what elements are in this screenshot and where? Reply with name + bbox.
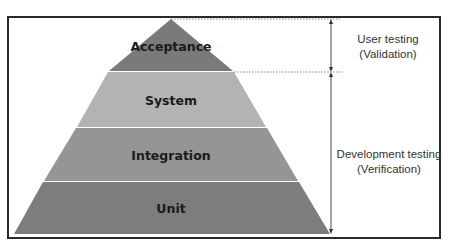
tier-label-integration: Integration (131, 148, 210, 163)
development-testing-title: Development testing (334, 147, 444, 162)
user-testing-label: User testing (Validation) (340, 32, 436, 62)
arrowhead-down-icon (329, 229, 333, 234)
tier-label-system: System (145, 93, 197, 108)
tier-label-unit: Unit (156, 201, 185, 216)
arrowhead-up-icon (329, 72, 333, 77)
arrowhead-up-icon (329, 19, 333, 24)
development-testing-label: Development testing (Verification) (334, 147, 444, 177)
development-testing-subtitle: (Verification) (334, 162, 444, 177)
tier-label-acceptance: Acceptance (130, 39, 211, 54)
user-testing-subtitle: (Validation) (340, 47, 436, 62)
testing-pyramid-diagram: Acceptance System Integration Unit User … (0, 0, 450, 248)
arrowhead-down-icon (329, 67, 333, 72)
user-testing-title: User testing (340, 32, 436, 47)
